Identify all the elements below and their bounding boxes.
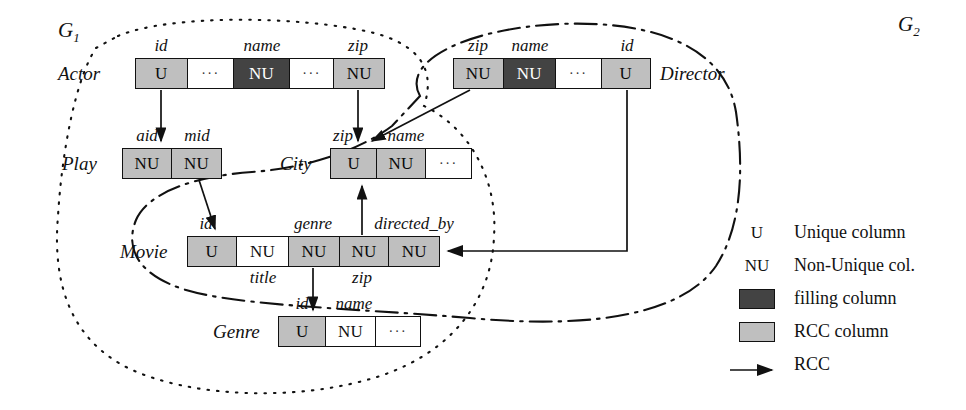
cell-director-id[interactable]: U <box>602 59 651 88</box>
column-label-play-aid: aid <box>136 126 158 146</box>
cell-actor-zip[interactable]: NU <box>334 59 384 88</box>
relation-name-city: City <box>280 153 312 175</box>
column-label-city-name: name <box>388 126 425 146</box>
column-label-movie-directed-by: directed_by <box>374 214 454 234</box>
legend-row-rcc-column: RCC column <box>726 315 962 348</box>
cell-movie-zip[interactable]: NU <box>340 237 390 266</box>
rcc-column-swatch-icon <box>739 322 775 342</box>
legend-row-unique: U Unique column <box>726 216 962 249</box>
column-label-movie-genre: genre <box>294 214 332 234</box>
legend-row-filling-column: filling column <box>726 282 962 315</box>
cell-director-ellipsis: ··· <box>556 59 602 88</box>
rcc-edge-director-id-to-movie-directed-by <box>448 90 627 251</box>
column-label-city-zip: zip <box>333 126 353 146</box>
cell-city-name[interactable]: NU <box>377 149 425 178</box>
region-label-g2: G2 <box>898 12 920 40</box>
cell-city-ellipsis: ··· <box>426 149 471 178</box>
cell-movie-title[interactable]: NU <box>237 237 290 266</box>
legend-label-non-unique: Non-Unique col. <box>788 255 915 276</box>
region-label-g1: G1 <box>58 18 80 46</box>
cell-director-name[interactable]: NU <box>504 59 556 88</box>
legend-key-unique: U <box>726 223 788 243</box>
legend-row-rcc-arrow: RCC <box>726 348 962 381</box>
column-label-actor-name: name <box>244 36 281 56</box>
column-label-actor-zip: zip <box>348 36 368 56</box>
relation-actor[interactable]: U ··· NU ··· NU <box>135 58 385 89</box>
figure-canvas: G1 G2 Actor id name zip U ··· NU ··· NU … <box>0 0 966 410</box>
column-label-play-mid: mid <box>184 126 210 146</box>
cell-movie-directed-by[interactable]: NU <box>389 237 439 266</box>
legend: U Unique column NU Non-Unique col. filli… <box>726 216 962 381</box>
cell-play-aid[interactable]: NU <box>123 149 172 178</box>
column-label-movie-title: title <box>250 268 276 288</box>
legend-label-rcc: RCC <box>788 354 830 375</box>
legend-label-rcc-column: RCC column <box>788 321 889 342</box>
legend-label-unique: Unique column <box>788 222 905 243</box>
legend-key-filling <box>726 289 788 309</box>
cell-actor-name[interactable]: NU <box>234 59 290 88</box>
relation-play[interactable]: NU NU <box>122 148 222 179</box>
cell-movie-id[interactable]: U <box>188 237 237 266</box>
relation-name-actor: Actor <box>58 63 100 85</box>
cell-genre-name[interactable]: NU <box>326 317 375 346</box>
legend-label-filling-column: filling column <box>788 288 897 309</box>
column-label-genre-name: name <box>336 294 373 314</box>
column-label-movie-id: id <box>199 214 212 234</box>
relation-movie[interactable]: U NU NU NU NU <box>187 236 440 267</box>
relation-genre[interactable]: U NU ··· <box>278 316 421 347</box>
cell-city-zip[interactable]: U <box>331 149 377 178</box>
relation-name-play: Play <box>62 153 97 175</box>
cell-movie-genre[interactable]: NU <box>289 237 340 266</box>
column-label-director-name: name <box>512 36 549 56</box>
cell-genre-id[interactable]: U <box>279 317 326 346</box>
relation-name-director: Director <box>660 63 725 85</box>
cell-actor-ellipsis-1: ··· <box>188 59 235 88</box>
legend-row-non-unique: NU Non-Unique col. <box>726 249 962 282</box>
cell-play-mid[interactable]: NU <box>172 149 221 178</box>
cell-actor-id[interactable]: U <box>136 59 188 88</box>
relation-name-movie: Movie <box>120 241 167 263</box>
column-label-director-zip: zip <box>468 36 488 56</box>
relation-city[interactable]: U NU ··· <box>330 148 472 179</box>
column-label-movie-zip: zip <box>352 268 372 288</box>
cell-actor-ellipsis-2: ··· <box>290 59 335 88</box>
legend-key-non-unique: NU <box>726 256 788 276</box>
cell-genre-ellipsis: ··· <box>376 317 420 346</box>
column-label-genre-id: id <box>295 294 308 314</box>
cell-director-zip[interactable]: NU <box>454 59 504 88</box>
column-label-actor-id: id <box>154 36 167 56</box>
column-label-director-id: id <box>620 36 633 56</box>
legend-key-rcc <box>726 322 788 342</box>
relation-name-genre: Genre <box>213 321 260 343</box>
filling-column-swatch-icon <box>739 289 775 309</box>
relation-director[interactable]: NU NU ··· U <box>453 58 651 89</box>
